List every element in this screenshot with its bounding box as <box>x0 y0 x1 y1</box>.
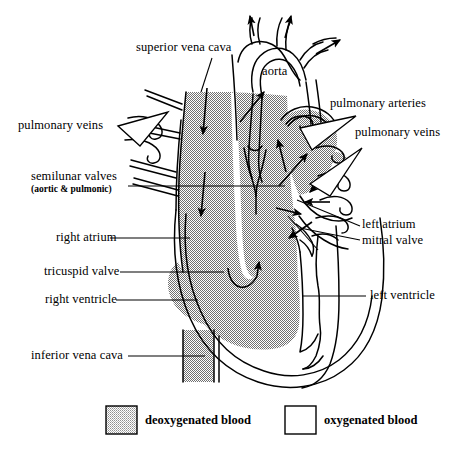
label-superior-vena-cava: superior vena cava <box>136 41 232 54</box>
legend-swatch-oxygenated <box>285 406 316 434</box>
label-tricuspid-valve: tricuspid valve <box>44 265 119 278</box>
label-mitral-valve: mitral valve <box>362 234 423 247</box>
label-pulmonary-arteries: pulmonary arteries <box>330 97 426 110</box>
label-semilunar-valves-sub: (aortic & pulmonic) <box>31 183 117 196</box>
legend-label-oxygenated: oxygenated blood <box>324 413 417 428</box>
label-pulmonary-veins-left: pulmonary veins <box>18 119 103 132</box>
label-right-ventricle: right ventricle <box>45 293 117 306</box>
label-semilunar-valves-group: semilunar valves (aortic & pulmonic) <box>31 170 117 196</box>
label-right-atrium: right atrium <box>56 231 117 244</box>
label-aorta: aorta <box>262 65 287 78</box>
label-inferior-vena-cava: inferior vena cava <box>31 349 123 362</box>
label-left-atrium: left atrium <box>362 218 416 231</box>
label-pulmonary-veins-right: pulmonary veins <box>355 126 440 139</box>
legend-label-deoxygenated: deoxygenated blood <box>145 413 251 428</box>
label-semilunar-valves: semilunar valves <box>31 170 117 183</box>
legend-swatch-deoxygenated <box>106 406 137 434</box>
diagram-canvas: superior vena cava aorta pulmonary arter… <box>0 0 471 460</box>
label-left-ventricle: left ventricle <box>370 289 435 302</box>
